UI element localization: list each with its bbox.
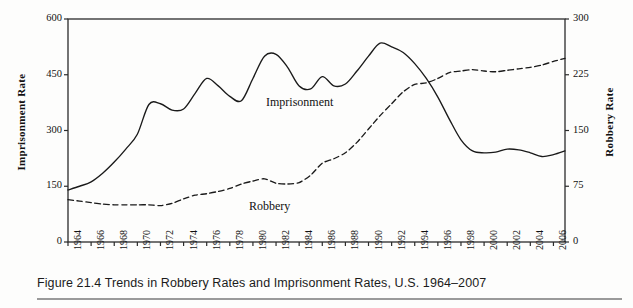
y-axis-right-title: Robbery Rate <box>603 67 615 177</box>
x-axis-tick: 1992 <box>396 230 407 250</box>
x-axis-tick: 1990 <box>373 230 384 250</box>
figure-caption-block: Figure 21.4 Trends in Robbery Rates and … <box>0 274 633 308</box>
series-line-imprisonment <box>68 43 565 190</box>
x-axis-tick: 1966 <box>95 230 106 250</box>
x-axis-tick: 2006 <box>557 230 568 250</box>
y-axis-right-tick: 75 <box>573 179 613 190</box>
figure-container: Imprisonment Rate Robbery Rate Imprisonm… <box>0 0 633 308</box>
x-axis-tick: 1974 <box>188 230 199 250</box>
x-axis-tick: 1972 <box>164 230 175 250</box>
series-label-imprisonment: Imprisonment <box>266 95 333 110</box>
x-axis-tick: 1996 <box>442 230 453 250</box>
x-axis-tick: 2004 <box>534 230 545 250</box>
y-axis-right-tick: 300 <box>573 12 613 23</box>
y-axis-left-tick: 0 <box>20 235 62 246</box>
x-axis-tick: 1980 <box>257 230 268 250</box>
series-line-robbery <box>68 58 565 205</box>
x-axis-tick: 1994 <box>419 230 430 250</box>
y-axis-right-tick: 225 <box>573 68 613 79</box>
x-axis-tick: 1970 <box>141 230 152 250</box>
x-axis-tick: 1976 <box>211 230 222 250</box>
figure-caption-text: Figure 21.4 Trends in Robbery Rates and … <box>37 276 486 290</box>
y-axis-left-tick: 600 <box>20 12 62 23</box>
x-axis-tick: 1998 <box>465 230 476 250</box>
y-axis-right-tick: 0 <box>573 235 613 246</box>
chart-plot-area: Imprisonment Rate Robbery Rate Imprisonm… <box>0 0 633 272</box>
y-axis-left-tick: 150 <box>20 179 62 190</box>
y-axis-left-tick: 450 <box>20 68 62 79</box>
y-axis-right-tick: 150 <box>573 124 613 135</box>
x-axis-tick: 1978 <box>234 230 245 250</box>
caption-divider <box>37 298 622 300</box>
x-axis-tick: 1984 <box>303 230 314 250</box>
x-axis-tick: 1982 <box>280 230 291 250</box>
x-axis-tick: 1964 <box>72 230 83 250</box>
x-axis-tick: 1988 <box>349 230 360 250</box>
x-axis-tick: 2000 <box>488 230 499 250</box>
x-axis-tick: 1986 <box>326 230 337 250</box>
x-axis-tick: 2002 <box>511 230 522 250</box>
x-axis-tick: 1968 <box>118 230 129 250</box>
series-label-robbery: Robbery <box>249 199 290 214</box>
y-axis-left-tick: 300 <box>20 124 62 135</box>
